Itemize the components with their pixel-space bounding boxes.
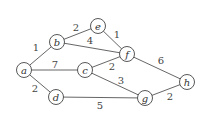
- edge-weight-b-e: 2: [73, 22, 79, 33]
- edge-weight-c-g: 3: [118, 75, 124, 86]
- node-label: h: [184, 77, 190, 88]
- node-d: d: [49, 90, 64, 105]
- edge-weight-d-g: 5: [97, 100, 103, 111]
- edge-weight-f-h: 6: [158, 55, 164, 66]
- edge-weight-c-f: 2: [109, 61, 115, 72]
- edge-d-g: [56, 97, 145, 98]
- node-label: b: [54, 37, 60, 48]
- node-f: f: [120, 47, 135, 62]
- weighted-graph: 12417232562 abecfdgh: [0, 0, 211, 121]
- node-e: e: [91, 19, 106, 34]
- node-label: e: [95, 21, 101, 32]
- edge-c-g: [85, 70, 145, 98]
- node-label: d: [53, 92, 59, 103]
- edge-weight-g-h: 2: [167, 91, 173, 102]
- node-a: a: [17, 63, 32, 78]
- edge-weight-a-b: 1: [33, 42, 39, 53]
- edge-weight-a-d: 2: [32, 83, 38, 94]
- node-c: c: [78, 63, 93, 78]
- node-h: h: [180, 75, 195, 90]
- node-label: a: [21, 65, 27, 76]
- edge-weight-a-c: 7: [52, 59, 58, 70]
- node-b: b: [50, 35, 65, 50]
- node-label: g: [142, 93, 148, 104]
- node-g: g: [138, 91, 153, 106]
- node-label: c: [82, 65, 88, 76]
- edge-weight-e-f: 1: [114, 29, 120, 40]
- edge-weight-b-f: 4: [87, 35, 93, 46]
